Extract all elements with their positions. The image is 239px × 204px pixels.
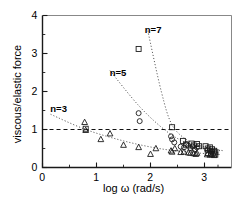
- series-annotation-n7: n=7: [145, 24, 162, 35]
- data-point-n5-circle: [137, 119, 142, 124]
- chart-figure: 012301234log ω (rad/s)viscous/elastic fo…: [0, 0, 239, 204]
- y-axis-title: viscous/elastic force: [11, 42, 23, 146]
- y-tick-label-4: 4: [32, 9, 38, 21]
- data-point-n3-triangle: [98, 136, 104, 141]
- y-tick-label-2: 2: [32, 85, 38, 97]
- x-tick-label-1: 1: [93, 171, 99, 183]
- x-axis-title: log ω (rad/s): [103, 182, 164, 194]
- fit-curve-n7: [148, 31, 224, 151]
- data-point-n3-triangle: [148, 151, 154, 156]
- data-point-n3-triangle: [121, 142, 127, 147]
- fit-curve-n5: [110, 71, 221, 151]
- data-point-n5-circle: [136, 111, 141, 116]
- y-tick-label-1: 1: [32, 123, 38, 135]
- x-tick-label-3: 3: [201, 171, 207, 183]
- x-tick-label-2: 2: [147, 171, 153, 183]
- series-annotation-n3: n=3: [50, 103, 67, 114]
- x-tick-label-0: 0: [39, 171, 45, 183]
- data-point-n5-circle: [169, 134, 174, 139]
- data-point-n3-triangle: [107, 131, 113, 136]
- y-tick-label-0: 0: [32, 161, 38, 173]
- data-point-n7-square: [136, 46, 141, 51]
- data-point-n3-triangle: [172, 145, 178, 150]
- data-point-n3-triangle: [136, 144, 142, 149]
- data-point-n3-triangle: [82, 119, 88, 124]
- series-annotation-n5: n=5: [110, 67, 127, 78]
- y-tick-label-3: 3: [32, 47, 38, 59]
